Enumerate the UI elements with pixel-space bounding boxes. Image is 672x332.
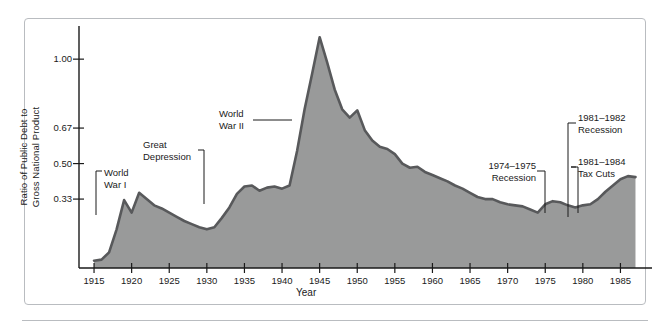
annotation-recession-1981-1982: 1981–1982 Recession bbox=[578, 112, 626, 135]
x-axis-tick-label: 1950 bbox=[342, 275, 372, 286]
x-axis-tick-label: 1940 bbox=[267, 275, 297, 286]
annotation-recession-1981-1982-line-2: Recession bbox=[578, 124, 622, 135]
x-axis-tick-label: 1970 bbox=[493, 275, 523, 286]
annotation-great-depression: Great Depression bbox=[143, 139, 191, 162]
annotation-tax-cuts-1981-1984: 1981–1984 Tax Cuts bbox=[578, 156, 626, 179]
x-axis-tick-label: 1965 bbox=[455, 275, 485, 286]
annotation-world-war-ii-line-1: World bbox=[219, 108, 244, 119]
annotation-world-war-i-line-2: War I bbox=[104, 179, 126, 190]
annotation-world-war-i-line-1: World bbox=[104, 167, 129, 178]
annotation-recession-1981-1982-line-1: 1981–1982 bbox=[578, 112, 626, 123]
x-axis-tick-label: 1955 bbox=[380, 275, 410, 286]
x-axis-tick-label: 1925 bbox=[154, 275, 184, 286]
annotation-tax-cuts-1981-1984-line-1: 1981–1984 bbox=[578, 156, 626, 167]
x-axis-tick-label: 1945 bbox=[305, 275, 335, 286]
annotation-great-depression-line-1: Great bbox=[143, 139, 167, 150]
leader-line-great-depression bbox=[198, 150, 204, 204]
annotation-recession-1974-1975-line-2: Recession bbox=[492, 172, 536, 183]
y-axis-tick-label: 1.00 bbox=[34, 53, 72, 64]
annotation-recession-1974-1975-line-1: 1974–1975 bbox=[488, 160, 536, 171]
x-axis-tick-label: 1915 bbox=[79, 275, 109, 286]
y-axis-tick-label: 0.50 bbox=[34, 158, 72, 169]
annotation-great-depression-line-2: Depression bbox=[143, 151, 191, 162]
x-axis-tick-label: 1960 bbox=[417, 275, 447, 286]
x-axis-tick-label: 1985 bbox=[605, 275, 635, 286]
leader-line-world-war-i bbox=[96, 171, 102, 215]
annotation-world-war-ii: World War II bbox=[219, 108, 244, 131]
leader-line-recession-1981-1982 bbox=[568, 123, 576, 217]
x-axis-tick-label: 1920 bbox=[117, 275, 147, 286]
x-axis-tick-label: 1975 bbox=[530, 275, 560, 286]
y-axis-tick-label: 0.67 bbox=[34, 122, 72, 133]
chart-figure: Ratio of Public Debt to Gross National P… bbox=[0, 0, 672, 332]
annotation-world-war-i: World War I bbox=[104, 167, 129, 190]
x-axis-tick-label: 1930 bbox=[192, 275, 222, 286]
annotation-recession-1974-1975: 1974–1975 Recession bbox=[444, 160, 536, 183]
x-axis-tick-label: 1980 bbox=[568, 275, 598, 286]
annotation-tax-cuts-1981-1984-line-2: Tax Cuts bbox=[578, 168, 615, 179]
annotation-world-war-ii-line-2: War II bbox=[219, 120, 244, 131]
x-axis-tick-label: 1935 bbox=[229, 275, 259, 286]
y-axis-tick-label: 0.33 bbox=[34, 193, 72, 204]
